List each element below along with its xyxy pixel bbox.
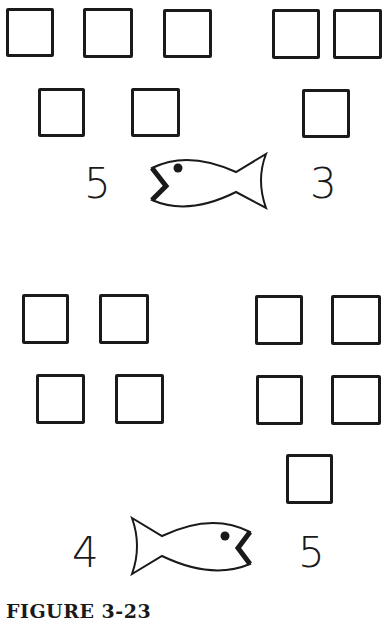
box bbox=[331, 375, 381, 425]
box bbox=[83, 8, 133, 58]
figure-caption: FIGURE 3-23 bbox=[6, 600, 151, 618]
left-number: 5 bbox=[84, 163, 111, 205]
right-number: 3 bbox=[310, 163, 337, 205]
fish-icon bbox=[130, 514, 254, 578]
box bbox=[302, 89, 350, 138]
box bbox=[115, 374, 164, 424]
box bbox=[22, 294, 69, 344]
box bbox=[331, 295, 381, 345]
left-number: 4 bbox=[72, 532, 99, 574]
box bbox=[131, 88, 180, 137]
box bbox=[333, 9, 382, 59]
box bbox=[286, 454, 333, 504]
box bbox=[99, 294, 149, 344]
box bbox=[6, 8, 54, 57]
box bbox=[163, 9, 212, 58]
box bbox=[36, 374, 85, 424]
fish-icon bbox=[148, 152, 270, 212]
box bbox=[272, 9, 320, 59]
right-number: 5 bbox=[298, 532, 325, 574]
box bbox=[256, 375, 303, 425]
box bbox=[38, 88, 85, 137]
box bbox=[255, 295, 303, 345]
